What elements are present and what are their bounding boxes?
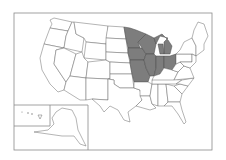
state-michigan [154,34,172,54]
state-new-york [176,38,196,56]
state-wyoming [84,42,106,60]
state-kansas [110,62,132,74]
us-map [0,0,226,160]
state-north-dakota [106,26,126,39]
state-south-dakota [106,38,128,53]
state-nebraska [106,52,130,63]
state-arizona [64,76,86,100]
hawaii [21,111,42,119]
state-colorado [86,60,110,79]
hawaii-inset-border [14,105,50,126]
alaska [34,108,86,146]
state-new-mexico [86,78,108,100]
state-florida [164,102,186,124]
